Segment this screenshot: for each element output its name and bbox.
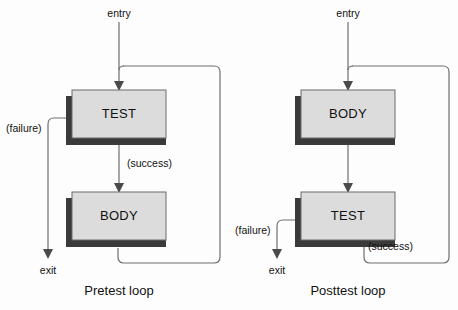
pretest-success-label: (success): [127, 157, 172, 169]
posttest-loop-group: entry BODY TEST (failure): [235, 7, 449, 298]
diagram-canvas: entry TEST (failure) exit (success): [0, 0, 458, 310]
posttest-failure-arrowhead: [272, 249, 282, 259]
posttest-body-box-label: BODY: [329, 106, 367, 121]
pretest-test-box-label: TEST: [102, 106, 136, 121]
posttest-caption: Posttest loop: [310, 283, 385, 298]
posttest-test-box-label: TEST: [331, 208, 365, 223]
posttest-exit-label: exit: [269, 264, 285, 276]
pretest-caption: Pretest loop: [84, 283, 153, 298]
posttest-failure-label: (failure): [235, 224, 271, 236]
pretest-failure-arrowhead: [43, 249, 53, 259]
pretest-loop-group: entry TEST (failure) exit (success): [6, 7, 220, 298]
pretest-failure-label: (failure): [6, 122, 42, 134]
posttest-loopback-corner: [348, 66, 353, 70]
posttest-failure-path: [277, 220, 295, 250]
pretest-loopback-corner: [119, 66, 124, 70]
pretest-exit-label: exit: [40, 264, 56, 276]
pretest-failure-path: [48, 118, 66, 250]
posttest-success-label: (success): [368, 240, 413, 252]
loop-control-flow-diagram: entry TEST (failure) exit (success): [0, 0, 458, 310]
posttest-entry-label: entry: [336, 7, 360, 19]
pretest-entry-label: entry: [107, 7, 131, 19]
pretest-body-box-label: BODY: [100, 208, 138, 223]
